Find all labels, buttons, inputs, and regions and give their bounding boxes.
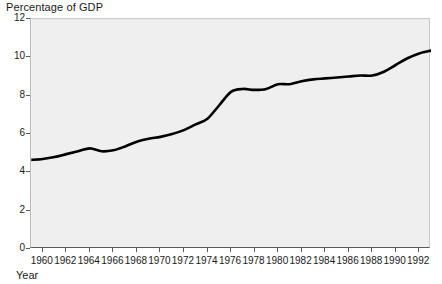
x-tick-mark xyxy=(65,248,66,252)
x-tick-label: 1980 xyxy=(266,255,288,267)
x-tick-label: 1976 xyxy=(219,255,241,267)
x-tick-mark xyxy=(42,248,43,252)
plot-area xyxy=(30,18,430,248)
data-series-line xyxy=(31,51,431,160)
x-tick-label: 1992 xyxy=(407,255,429,267)
y-tick-label: 12 xyxy=(3,13,25,23)
x-tick-label: 1978 xyxy=(242,255,264,267)
x-tick-label: 1974 xyxy=(195,255,217,267)
x-tick-label: 1972 xyxy=(172,255,194,267)
x-tick-mark xyxy=(207,248,208,252)
x-tick-mark xyxy=(301,248,302,252)
chart-figure: Percentage of GDP 12 10 8 6 4 2 0 196019… xyxy=(0,0,442,284)
y-tick-label: 10 xyxy=(3,51,25,61)
x-tick-label: 1984 xyxy=(313,255,335,267)
x-tick-mark xyxy=(112,248,113,252)
y-tick-label: 2 xyxy=(3,205,25,215)
x-tick-label: 1968 xyxy=(125,255,147,267)
x-tick-mark xyxy=(159,248,160,252)
y-tick-label: 4 xyxy=(3,166,25,176)
x-tick-mark xyxy=(230,248,231,252)
y-tick-label: 6 xyxy=(3,128,25,138)
data-line-svg xyxy=(31,19,431,249)
x-tick-label: 1970 xyxy=(148,255,170,267)
x-tick-mark xyxy=(395,248,396,252)
x-axis-tick-labels: 1960196219641966196819701972197419761978… xyxy=(0,255,442,269)
x-tick-label: 1960 xyxy=(31,255,53,267)
x-tick-label: 1982 xyxy=(289,255,311,267)
x-tick-mark xyxy=(277,248,278,252)
x-tick-mark xyxy=(418,248,419,252)
y-tick-label: 0 xyxy=(3,243,25,253)
x-tick-label: 1962 xyxy=(54,255,76,267)
y-tick-label: 8 xyxy=(3,90,25,100)
x-tick-mark xyxy=(89,248,90,252)
x-tick-mark xyxy=(371,248,372,252)
x-axis-title: Year xyxy=(16,269,38,282)
x-tick-mark xyxy=(136,248,137,252)
x-tick-label: 1988 xyxy=(360,255,382,267)
y-axis-tick-labels: 12 10 8 6 4 2 0 xyxy=(0,0,25,284)
x-tick-mark xyxy=(183,248,184,252)
x-tick-label: 1990 xyxy=(384,255,406,267)
x-tick-mark xyxy=(324,248,325,252)
x-tick-mark xyxy=(254,248,255,252)
x-tick-label: 1986 xyxy=(336,255,358,267)
x-tick-mark xyxy=(348,248,349,252)
x-axis-tick-marks xyxy=(30,248,431,253)
x-tick-label: 1966 xyxy=(101,255,123,267)
x-tick-label: 1964 xyxy=(78,255,100,267)
